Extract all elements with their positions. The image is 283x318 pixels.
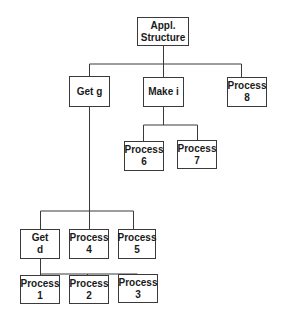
node-label: Get g — [77, 86, 103, 98]
node-label: Structure — [141, 32, 185, 44]
node-label: 6 — [141, 156, 147, 168]
node-label: d — [37, 244, 43, 256]
node-label: Process — [21, 278, 60, 290]
structure-chart: Appl. Structure Get g Make i Process 8 P… — [0, 0, 283, 318]
node-process-2: Process 2 — [69, 275, 109, 304]
node-label: Process — [118, 232, 157, 244]
node-get-g: Get g — [69, 76, 110, 107]
node-get-d: Get d — [20, 229, 60, 259]
node-process-7: Process 7 — [177, 140, 217, 169]
node-label: Appl. — [151, 20, 176, 32]
node-label: Process — [228, 80, 267, 92]
node-label: Process — [70, 232, 109, 244]
node-label: 3 — [135, 289, 141, 301]
node-label: Get — [32, 232, 49, 244]
node-label: Process — [119, 277, 158, 289]
node-label: 2 — [86, 290, 92, 302]
node-process-3: Process 3 — [118, 274, 158, 303]
node-label: 1 — [37, 290, 43, 302]
node-process-6: Process 6 — [124, 141, 164, 171]
node-label: Make i — [148, 86, 179, 98]
node-label: Process — [70, 278, 109, 290]
node-label: 4 — [86, 244, 92, 256]
node-label: 5 — [134, 244, 140, 256]
node-make-i: Make i — [143, 77, 184, 107]
node-process-4: Process 4 — [69, 229, 109, 259]
node-process-1: Process 1 — [20, 275, 60, 304]
node-process-5: Process 5 — [118, 229, 156, 259]
node-appl-structure: Appl. Structure — [137, 17, 189, 46]
node-label: Process — [178, 143, 217, 155]
node-label: 7 — [194, 155, 200, 167]
node-label: Process — [125, 144, 164, 156]
node-process-8: Process 8 — [227, 77, 267, 107]
node-label: 8 — [244, 92, 250, 104]
